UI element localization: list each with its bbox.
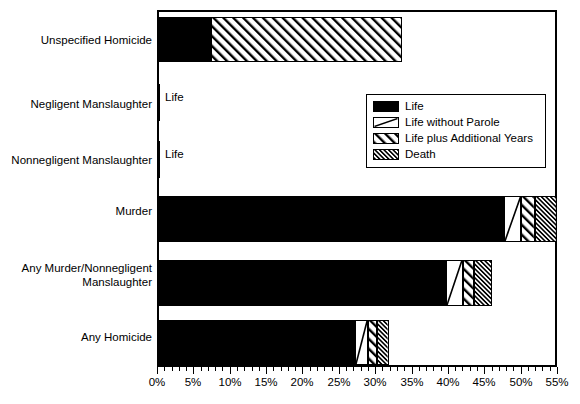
x-minor-tick: [215, 367, 216, 371]
x-minor-tick: [346, 367, 347, 371]
x-minor-tick: [419, 367, 420, 371]
x-minor-tick: [542, 367, 543, 371]
x-minor-tick: [186, 367, 187, 371]
x-minor-tick: [295, 367, 296, 371]
x-minor-tick: [317, 367, 318, 371]
ytick-label-nonnegligent-manslaughter: Nonnegligent Manslaughter: [0, 154, 152, 168]
x-minor-tick: [390, 367, 391, 371]
legend-item-life: Life: [373, 99, 539, 114]
x-minor-tick: [426, 367, 427, 371]
x-major-tick: [484, 367, 485, 374]
x-major-tick: [375, 367, 376, 374]
legend-item-death: Death: [373, 147, 539, 162]
x-minor-tick: [222, 367, 223, 371]
x-minor-tick: [492, 367, 493, 371]
x-minor-tick: [397, 367, 398, 371]
xtick-label: 20%: [290, 376, 313, 389]
x-minor-tick: [237, 367, 238, 371]
xtick-label: 30%: [363, 376, 386, 389]
legend-label-death: Death: [405, 148, 436, 161]
x-minor-tick: [441, 367, 442, 371]
xtick-label: 55%: [545, 376, 568, 389]
ytick-label-negligent-manslaughter: Negligent Manslaughter: [0, 98, 152, 112]
x-minor-tick: [433, 367, 434, 371]
x-minor-tick: [179, 367, 180, 371]
x-major-tick: [193, 367, 194, 374]
x-minor-tick: [499, 367, 500, 371]
x-minor-tick: [382, 367, 383, 371]
x-minor-tick: [535, 367, 536, 371]
xtick-label: 5%: [185, 376, 202, 389]
homicide-sentence-chart: Unspecified Homicide Negligent Manslaugh…: [0, 0, 580, 404]
x-major-tick: [557, 367, 558, 374]
bar-annotation-negligent-life: Life: [165, 91, 184, 104]
x-major-tick: [339, 367, 340, 374]
x-major-tick: [412, 367, 413, 374]
legend-swatch-death: [373, 149, 399, 160]
legend-swatch-life-without-parole: [373, 117, 399, 128]
x-minor-tick: [477, 367, 478, 371]
ytick-label-any-murder-nonnegligent-manslaughter: Any Murder/Nonnegligent Manslaughter: [0, 262, 152, 289]
x-major-tick: [157, 367, 158, 374]
xtick-label: 25%: [327, 376, 350, 389]
x-minor-tick: [550, 367, 551, 371]
ytick-label-any-homicide: Any Homicide: [0, 331, 152, 345]
xtick-label: 15%: [254, 376, 277, 389]
xtick-label: 45%: [472, 376, 495, 389]
x-minor-tick: [368, 367, 369, 371]
x-minor-tick: [259, 367, 260, 371]
legend-item-life-plus-additional-years: Life plus Additional Years: [373, 131, 539, 146]
x-minor-tick: [252, 367, 253, 371]
x-minor-tick: [332, 367, 333, 371]
xtick-label: 10%: [218, 376, 241, 389]
xtick-label: 40%: [436, 376, 459, 389]
x-major-tick: [521, 367, 522, 374]
legend-label-life-plus-additional-years: Life plus Additional Years: [405, 132, 533, 145]
legend-label-life-without-parole: Life without Parole: [405, 116, 500, 129]
x-minor-tick: [470, 367, 471, 371]
legend-item-life-without-parole: Life without Parole: [373, 115, 539, 130]
x-major-tick: [302, 367, 303, 374]
x-minor-tick: [353, 367, 354, 371]
x-minor-tick: [528, 367, 529, 371]
ytick-label-murder: Murder: [0, 205, 152, 219]
x-minor-tick: [281, 367, 282, 371]
x-minor-tick: [288, 367, 289, 371]
x-minor-tick: [310, 367, 311, 371]
xtick-label: 50%: [509, 376, 532, 389]
bar-annotation-nonnegligent-life: Life: [165, 148, 184, 161]
ytick-label-unspecified-homicide: Unspecified Homicide: [0, 34, 152, 48]
x-minor-tick: [208, 367, 209, 371]
x-major-tick: [448, 367, 449, 374]
x-minor-tick: [324, 367, 325, 371]
x-minor-tick: [506, 367, 507, 371]
x-minor-tick: [404, 367, 405, 371]
x-minor-tick: [201, 367, 202, 371]
x-minor-tick: [273, 367, 274, 371]
x-minor-tick: [513, 367, 514, 371]
x-minor-tick: [244, 367, 245, 371]
x-minor-tick: [462, 367, 463, 371]
xtick-label: 35%: [400, 376, 423, 389]
x-minor-tick: [455, 367, 456, 371]
legend-swatch-life: [373, 101, 399, 112]
legend: Life Life without Parole Life plus Addit…: [366, 94, 546, 168]
x-major-tick: [230, 367, 231, 374]
x-minor-tick: [164, 367, 165, 371]
x-minor-tick: [172, 367, 173, 371]
x-major-tick: [266, 367, 267, 374]
x-minor-tick: [361, 367, 362, 371]
legend-label-life: Life: [405, 100, 424, 113]
plot-area: [157, 10, 557, 367]
legend-swatch-life-plus-additional-years: [373, 133, 399, 144]
xtick-label: 0%: [149, 376, 166, 389]
